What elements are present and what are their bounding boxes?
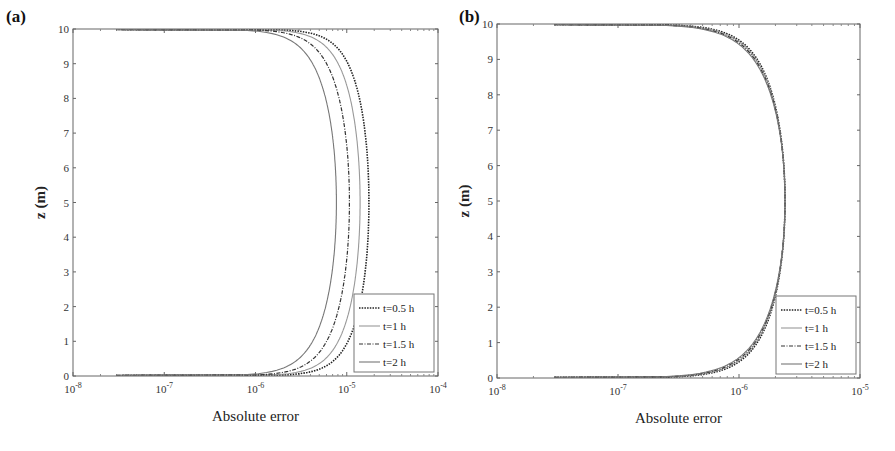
y-tick-label: 6 xyxy=(64,162,70,174)
panel-a: 01234567891010-810-710-610-510-4Absolute… xyxy=(6,7,447,424)
series-line xyxy=(117,30,337,376)
x-axis-label: Absolute error xyxy=(635,410,722,426)
legend-entry: t=0.5 h xyxy=(805,304,837,316)
y-tick-label: 9 xyxy=(488,53,494,65)
y-tick-label: 6 xyxy=(488,160,494,172)
y-tick-label: 10 xyxy=(58,23,70,35)
legend-entry: t=2 h xyxy=(805,358,829,370)
x-tick-label: 10-5 xyxy=(851,383,869,397)
legend-entry: t=0.5 h xyxy=(383,302,415,314)
y-tick-label: 0 xyxy=(488,372,494,384)
y-axis-label: z (m) xyxy=(32,186,49,219)
series-line xyxy=(555,25,785,378)
figure: 01234567891010-810-710-610-510-4Absolute… xyxy=(0,0,895,451)
y-tick-label: 5 xyxy=(64,197,70,209)
legend-entry: t=1.5 h xyxy=(805,340,837,352)
x-tick-label: 10-5 xyxy=(338,381,356,395)
y-tick-label: 2 xyxy=(488,301,494,313)
panel-label: (b) xyxy=(459,7,480,26)
legend-entry: t=1.5 h xyxy=(383,338,415,350)
y-tick-label: 10 xyxy=(482,18,494,30)
y-tick-label: 7 xyxy=(488,124,494,136)
x-tick-label: 10-4 xyxy=(429,381,447,395)
legend-entry: t=1 h xyxy=(383,320,407,332)
y-tick-label: 1 xyxy=(64,335,70,347)
y-tick-label: 3 xyxy=(64,266,70,278)
series-line xyxy=(555,25,785,378)
legend-entry: t=2 h xyxy=(383,356,407,368)
y-tick-label: 8 xyxy=(488,89,494,101)
series-line xyxy=(555,25,785,378)
y-tick-label: 7 xyxy=(64,127,70,139)
x-tick-label: 10-7 xyxy=(609,383,627,397)
series-line xyxy=(117,30,350,376)
legend: t=0.5 ht=1 ht=1.5 ht=2 h xyxy=(354,294,434,372)
y-tick-label: 9 xyxy=(64,58,70,70)
panel-label: (a) xyxy=(6,7,26,26)
x-tick-label: 10-6 xyxy=(730,383,748,397)
y-tick-label: 4 xyxy=(64,231,70,243)
y-axis-label: z (m) xyxy=(456,185,473,218)
panel-b: 01234567891010-810-710-610-5Absolute err… xyxy=(456,7,869,426)
series-line xyxy=(117,30,361,376)
legend-entry: t=1 h xyxy=(805,322,829,334)
y-tick-label: 1 xyxy=(488,337,494,349)
y-tick-label: 5 xyxy=(488,195,494,207)
x-axis-label: Absolute error xyxy=(212,408,299,424)
y-tick-label: 0 xyxy=(64,370,70,382)
y-tick-label: 2 xyxy=(64,301,70,313)
x-tick-label: 10-8 xyxy=(488,383,506,397)
legend: t=0.5 ht=1 ht=1.5 ht=2 h xyxy=(776,296,856,374)
series-line xyxy=(123,30,369,376)
y-tick-label: 8 xyxy=(64,92,70,104)
x-tick-label: 10-6 xyxy=(247,381,265,395)
y-tick-label: 4 xyxy=(488,230,494,242)
x-tick-label: 10-8 xyxy=(64,381,82,395)
y-tick-label: 3 xyxy=(488,266,494,278)
x-tick-label: 10-7 xyxy=(155,381,173,395)
series-line xyxy=(555,25,785,378)
